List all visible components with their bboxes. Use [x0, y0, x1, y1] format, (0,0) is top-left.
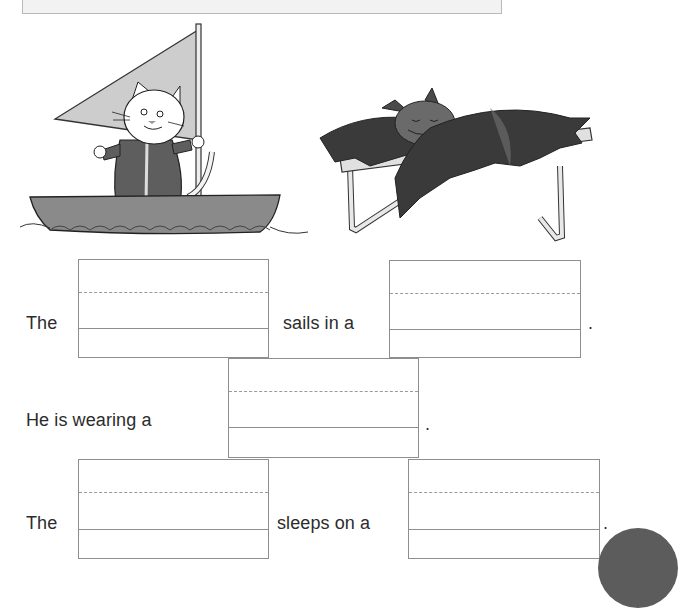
sentence-3-text-the: The: [26, 513, 57, 533]
base-line: [229, 427, 418, 428]
base-line: [79, 529, 268, 530]
sentence-3-period: .: [603, 513, 608, 533]
animal-1-input[interactable]: [83, 296, 264, 328]
top-instruction-banner: [22, 0, 502, 14]
animal-2-input[interactable]: [83, 497, 264, 529]
sentence-3-text-sleeps: sleeps on a: [277, 513, 370, 533]
guide-dash-line: [79, 492, 268, 493]
animal-1-blank[interactable]: [78, 259, 269, 358]
guide-dash-line: [390, 293, 580, 294]
sentence-1-period: .: [588, 313, 593, 333]
furniture-blank[interactable]: [408, 459, 600, 559]
guide-dash-line: [229, 391, 418, 392]
guide-dash-line: [409, 492, 599, 493]
base-line: [79, 328, 268, 329]
base-line: [390, 329, 580, 330]
guide-dash-line: [79, 292, 268, 293]
furniture-input[interactable]: [413, 497, 595, 529]
vehicle-input[interactable]: [394, 297, 576, 329]
sentence-1-text-the: The: [26, 313, 57, 333]
sentence-2-period: .: [425, 414, 430, 434]
sentence-2-text: He is wearing a: [26, 410, 152, 430]
cat-sailboat-illustration: [20, 22, 310, 242]
animal-2-blank[interactable]: [78, 459, 269, 559]
clothing-blank[interactable]: [228, 358, 419, 458]
vehicle-blank[interactable]: [389, 260, 581, 358]
sentence-1-text-sails: sails in a: [283, 313, 354, 333]
clothing-input[interactable]: [233, 395, 414, 427]
bat-bed-illustration: [300, 88, 620, 248]
base-line: [409, 529, 599, 530]
page-corner-decoration: [598, 528, 678, 608]
